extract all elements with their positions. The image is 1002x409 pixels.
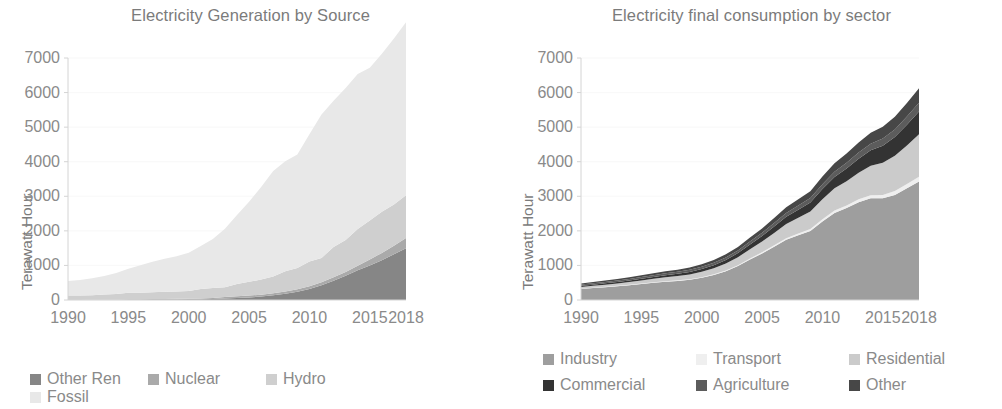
y-axis-tick-label: 5000 [6, 118, 60, 136]
y-axis-tick-label: 6000 [519, 84, 573, 102]
legend-swatch-icon [266, 374, 277, 385]
legend-item-nuclear[interactable]: Nuclear [148, 370, 266, 388]
y-axis-tick-label: 0 [6, 291, 60, 309]
y-axis-tick-label: 2000 [519, 222, 573, 240]
x-axis-tick-label: 2010 [805, 309, 841, 327]
x-axis-tick-label: 2015 [352, 309, 388, 327]
x-axis-tick-label: 1995 [111, 309, 147, 327]
x-axis-tick-label: 1995 [624, 309, 660, 327]
y-axis-tick-label: 7000 [519, 49, 573, 67]
x-axis-tick-label: 2000 [684, 309, 720, 327]
x-axis-tick-label: 2018 [901, 309, 937, 327]
x-axis-tick-label: 1990 [563, 309, 599, 327]
legend-swatch-icon [30, 392, 41, 403]
legend-item-commercial[interactable]: Commercial [543, 376, 696, 394]
chart-svg [0, 0, 501, 409]
legend-swatch-icon [543, 380, 554, 391]
legend-item-label: Other Ren [47, 370, 121, 388]
x-axis-tick-label: 2015 [865, 309, 901, 327]
legend-item-transport[interactable]: Transport [696, 350, 849, 368]
figure-root: Electricity Generation by Source Terawat… [0, 0, 1002, 409]
legend-item-residential[interactable]: Residential [849, 350, 1002, 368]
legend-item-label: Industry [560, 350, 617, 368]
right-plot-area: 7000600050004000300020001000019901995200… [501, 0, 1002, 409]
legend-item-hydro[interactable]: Hydro [266, 370, 384, 388]
legend-item-industry[interactable]: Industry [543, 350, 696, 368]
left-chart-legend: Other RenNuclearHydroFossil [30, 370, 480, 406]
right-chart-panel: Electricity final consumption by sector … [501, 0, 1002, 409]
legend-item-fossil[interactable]: Fossil [30, 388, 148, 406]
legend-swatch-icon [148, 374, 159, 385]
y-axis-tick-label: 1000 [519, 256, 573, 274]
y-axis-tick-label: 4000 [519, 153, 573, 171]
y-axis-tick-label: 2000 [6, 222, 60, 240]
y-axis-tick-label: 7000 [6, 49, 60, 67]
legend-item-agriculture[interactable]: Agriculture [696, 376, 849, 394]
legend-item-label: Fossil [47, 388, 89, 406]
legend-item-label: Commercial [560, 376, 645, 394]
x-axis-tick-label: 2005 [231, 309, 267, 327]
y-axis-tick-label: 6000 [6, 84, 60, 102]
y-axis-tick-label: 3000 [519, 187, 573, 205]
right-chart-legend: IndustryTransportResidentialCommercialAg… [543, 350, 1002, 402]
legend-item-label: Nuclear [165, 370, 220, 388]
y-axis-tick-label: 3000 [6, 187, 60, 205]
legend-item-label: Other [866, 376, 906, 394]
x-axis-tick-label: 2010 [292, 309, 328, 327]
left-chart-panel: Electricity Generation by Source Terawat… [0, 0, 501, 409]
x-axis-tick-label: 2000 [171, 309, 207, 327]
chart-svg [501, 0, 1002, 409]
left-plot-area: 7000600050004000300020001000019901995200… [0, 0, 501, 409]
y-axis-tick-label: 0 [519, 291, 573, 309]
legend-swatch-icon [543, 354, 554, 365]
y-axis-tick-label: 4000 [6, 153, 60, 171]
x-axis-tick-label: 2018 [388, 309, 424, 327]
x-axis-tick-label: 2005 [744, 309, 780, 327]
legend-item-label: Residential [866, 350, 945, 368]
y-axis-tick-label: 5000 [519, 118, 573, 136]
legend-item-other-ren[interactable]: Other Ren [30, 370, 148, 388]
x-axis-tick-label: 1990 [50, 309, 86, 327]
legend-item-other[interactable]: Other [849, 376, 1002, 394]
legend-swatch-icon [849, 380, 860, 391]
legend-swatch-icon [696, 354, 707, 365]
legend-swatch-icon [30, 374, 41, 385]
y-axis-tick-label: 1000 [6, 256, 60, 274]
legend-item-label: Transport [713, 350, 781, 368]
legend-item-label: Agriculture [713, 376, 789, 394]
legend-swatch-icon [696, 380, 707, 391]
legend-item-label: Hydro [283, 370, 326, 388]
legend-swatch-icon [849, 354, 860, 365]
